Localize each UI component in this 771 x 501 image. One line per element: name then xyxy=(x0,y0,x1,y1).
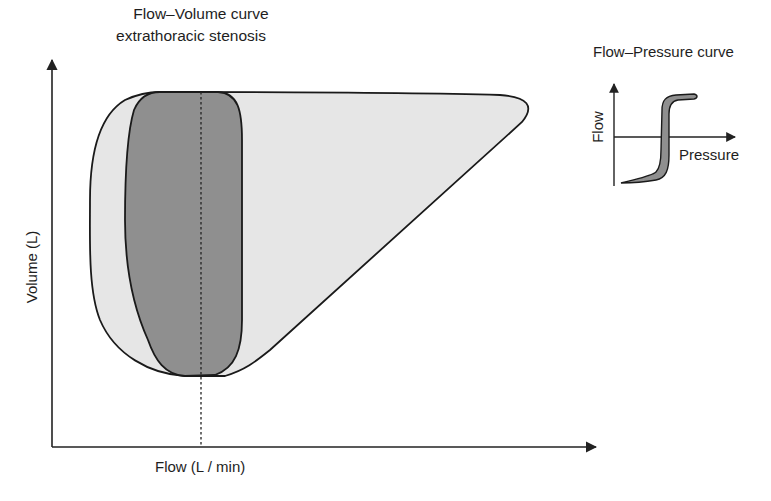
main-title-line1: Flow–Volume curve xyxy=(133,5,268,24)
y-axis-label: Volume (L) xyxy=(23,227,41,307)
inset-flow-pressure-loop xyxy=(621,94,697,183)
x-axis-label: Flow (L / min) xyxy=(155,458,245,476)
diagram-canvas xyxy=(0,0,771,501)
inset-x-axis-label: Pressure xyxy=(679,146,739,164)
inset-y-axis-label: Flow xyxy=(589,107,607,147)
inset-title: Flow–Pressure curve xyxy=(593,43,734,61)
main-title-line2: extrathoracic stenosis xyxy=(116,27,266,46)
